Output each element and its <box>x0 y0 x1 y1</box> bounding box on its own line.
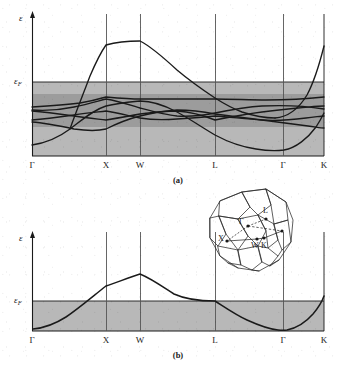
bz-label-l: L <box>263 207 268 215</box>
occupied-shading-b <box>32 301 324 331</box>
fermi-subscript-a: F <box>18 80 22 87</box>
fermi-level-label-b: εF <box>14 296 22 307</box>
y-axis-arrow-b <box>30 231 35 238</box>
bz-label-gamma: Γ <box>239 218 244 226</box>
bz-label-k: K <box>261 242 267 250</box>
tick-label-k-b: K <box>316 336 332 345</box>
band-structure-figure: ε εF Γ X W L Γ K (a) <box>0 0 341 366</box>
fermi-subscript-b: F <box>18 299 22 306</box>
fermi-epsilon-a: ε <box>14 76 18 86</box>
tick-label-l-b: L <box>207 336 223 345</box>
tick-label-x-b: X <box>98 336 114 345</box>
tick-label-x-a: X <box>98 161 114 170</box>
panel-a: ε εF Γ X W L Γ K (a) <box>0 0 341 190</box>
tick-label-gamma1-a: Γ <box>24 161 40 170</box>
y-axis-label-b: ε <box>19 234 23 243</box>
y-axis-label-a: ε <box>19 14 23 23</box>
bz-outline <box>210 189 293 271</box>
panel-b-caption: (b) <box>158 350 198 360</box>
tick-label-gamma1-b: Γ <box>24 336 40 345</box>
brillouin-zone-inset: L Γ X W K <box>196 186 304 282</box>
tick-label-k-a: K <box>316 161 332 170</box>
brillouin-zone-polyhedron <box>196 186 304 282</box>
bz-path-gamma-x <box>227 226 248 241</box>
tick-label-w-a: W <box>132 161 148 170</box>
tick-label-gamma2-b: Γ <box>275 336 291 345</box>
fermi-level-label-a: εF <box>14 77 22 88</box>
bz-label-w: W <box>251 242 259 250</box>
y-axis-arrow-a <box>30 11 35 18</box>
bz-face-top-left <box>219 192 250 219</box>
bz-label-x: X <box>218 235 224 243</box>
tick-label-gamma2-a: Γ <box>275 161 291 170</box>
bz-path-gamma-edge <box>248 226 282 231</box>
tick-label-l-a: L <box>207 161 223 170</box>
tick-label-w-b: W <box>132 336 148 345</box>
panel-a-caption: (a) <box>158 175 198 185</box>
fermi-epsilon-b: ε <box>14 295 18 305</box>
